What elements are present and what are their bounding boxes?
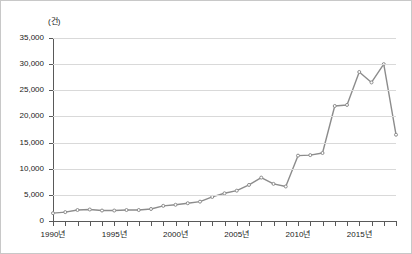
x-tick-label: 2010년 xyxy=(273,231,323,239)
y-tick-label: 10,000 xyxy=(20,165,44,173)
data-point-marker xyxy=(235,189,238,192)
x-tick-label: 1995년 xyxy=(89,231,139,239)
x-tick-mark xyxy=(90,222,91,226)
y-tick-label: 30,000 xyxy=(20,60,44,68)
gridline-horizontal xyxy=(53,90,396,91)
gridline-horizontal xyxy=(53,64,396,65)
data-point-marker xyxy=(137,209,140,212)
x-tick-mark xyxy=(274,222,275,226)
x-tick-mark xyxy=(139,222,140,226)
x-tick-mark xyxy=(151,222,152,226)
data-point-marker xyxy=(162,204,165,207)
y-tick-label: 35,000 xyxy=(20,34,44,42)
x-tick-mark xyxy=(323,222,324,226)
y-tick-label: 25,000 xyxy=(20,86,44,94)
data-point-marker xyxy=(321,152,324,155)
gridline-horizontal xyxy=(53,116,396,117)
x-tick-mark xyxy=(78,222,79,226)
x-tick-label: 1990년 xyxy=(28,231,78,239)
x-tick-mark xyxy=(347,222,348,226)
y-tick-label: 15,000 xyxy=(20,139,44,147)
data-point-marker xyxy=(76,209,79,212)
data-point-marker xyxy=(199,200,202,203)
chart-figure: (건) 05,00010,00015,00020,00025,00030,000… xyxy=(0,0,412,254)
y-tick-label: 5,000 xyxy=(24,191,44,199)
data-point-marker xyxy=(358,70,361,73)
data-point-marker xyxy=(272,182,275,185)
data-point-marker xyxy=(333,104,336,107)
data-point-marker xyxy=(113,209,116,212)
y-axis-unit-label: (건) xyxy=(48,18,60,26)
data-point-marker xyxy=(260,176,263,179)
y-tick-label: 20,000 xyxy=(20,112,44,120)
x-tick-mark xyxy=(114,222,115,226)
line-series-svg xyxy=(53,38,396,221)
x-tick-mark xyxy=(200,222,201,226)
x-tick-mark xyxy=(310,222,311,226)
x-axis-line xyxy=(53,221,397,222)
gridline-horizontal xyxy=(53,143,396,144)
data-point-marker xyxy=(248,183,251,186)
data-point-marker xyxy=(88,208,91,211)
x-tick-label: 2000년 xyxy=(151,231,201,239)
data-point-marker xyxy=(297,154,300,157)
x-tick-mark xyxy=(298,222,299,226)
x-tick-mark xyxy=(249,222,250,226)
data-point-marker xyxy=(64,211,67,214)
x-tick-mark xyxy=(65,222,66,226)
x-tick-label: 2015년 xyxy=(334,231,384,239)
data-point-marker xyxy=(284,185,287,188)
data-point-marker xyxy=(101,209,104,212)
x-tick-mark xyxy=(176,222,177,226)
x-tick-mark xyxy=(212,222,213,226)
x-tick-label: 2005년 xyxy=(212,231,262,239)
x-tick-mark xyxy=(261,222,262,226)
x-tick-mark xyxy=(359,222,360,226)
data-point-marker xyxy=(52,212,55,215)
x-tick-mark xyxy=(237,222,238,226)
x-tick-mark xyxy=(384,222,385,226)
x-tick-mark xyxy=(335,222,336,226)
x-tick-mark xyxy=(127,222,128,226)
data-point-marker xyxy=(395,133,398,136)
gridline-horizontal xyxy=(53,195,396,196)
data-point-marker xyxy=(174,203,177,206)
y-tick-label: 0 xyxy=(40,217,44,225)
data-point-marker xyxy=(309,154,312,157)
data-point-marker xyxy=(150,207,153,210)
data-point-marker xyxy=(346,103,349,106)
x-tick-mark xyxy=(396,222,397,226)
data-point-marker xyxy=(186,202,189,205)
gridline-horizontal xyxy=(53,169,396,170)
plot-area xyxy=(53,38,396,221)
data-point-marker xyxy=(370,81,373,84)
x-tick-mark xyxy=(102,222,103,226)
data-line xyxy=(53,64,396,213)
x-tick-mark xyxy=(188,222,189,226)
x-tick-mark xyxy=(225,222,226,226)
x-tick-mark xyxy=(163,222,164,226)
data-point-marker xyxy=(125,209,128,212)
x-tick-mark xyxy=(372,222,373,226)
x-tick-mark xyxy=(286,222,287,226)
gridline-horizontal xyxy=(53,38,396,39)
data-point-marker xyxy=(211,195,214,198)
x-tick-mark xyxy=(53,222,54,226)
